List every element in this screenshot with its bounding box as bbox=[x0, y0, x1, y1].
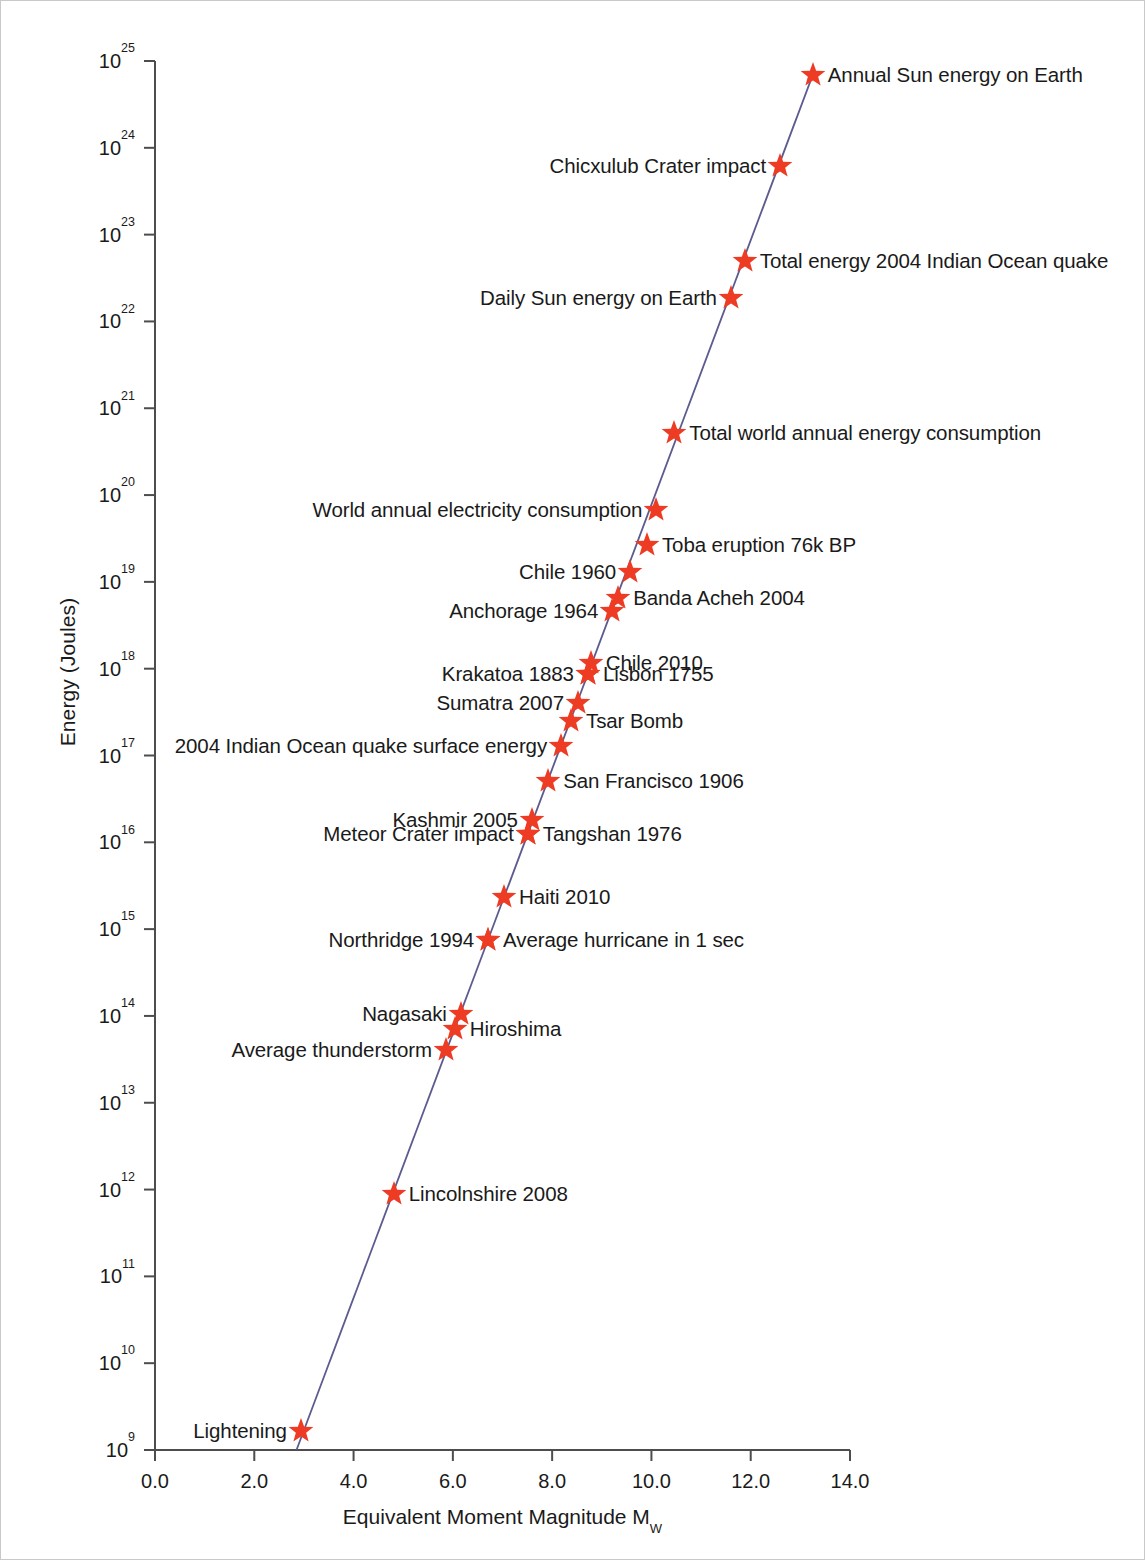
y-tick-label: 1012 bbox=[0, 1178, 135, 1202]
y-tick-label: 1019 bbox=[0, 570, 135, 594]
y-tick-exponent: 10 bbox=[121, 1344, 135, 1358]
y-tick-base: 10 bbox=[99, 484, 121, 506]
y-tick-base: 10 bbox=[99, 137, 121, 159]
data-point-label: Meteor Crater impact bbox=[323, 822, 514, 846]
y-tick-exponent: 20 bbox=[121, 475, 135, 489]
y-tick-label: 1025 bbox=[0, 49, 135, 73]
y-tick-exponent: 16 bbox=[121, 823, 135, 837]
y-tick-exponent: 19 bbox=[121, 562, 135, 576]
y-tick-exponent: 13 bbox=[121, 1083, 135, 1097]
data-point-label: Total energy 2004 Indian Ocean quake bbox=[760, 249, 1109, 273]
y-tick-base: 10 bbox=[99, 223, 121, 245]
x-tick-label: 0.0 bbox=[141, 1470, 169, 1493]
y-tick-label: 1014 bbox=[0, 1004, 135, 1028]
data-point-label: Average hurricane in 1 sec bbox=[503, 928, 744, 952]
y-tick-exponent: 18 bbox=[121, 649, 135, 663]
x-tick-label: 10.0 bbox=[632, 1470, 671, 1493]
data-point-label: Lightening bbox=[193, 1419, 287, 1443]
y-tick-exponent: 17 bbox=[121, 736, 135, 750]
data-point-label: Daily Sun energy on Earth bbox=[480, 286, 717, 310]
data-point-label: Lisbon 1755 bbox=[603, 662, 714, 686]
y-tick-base: 10 bbox=[100, 1265, 122, 1287]
y-tick-exponent: 24 bbox=[121, 128, 135, 142]
y-tick-exponent: 14 bbox=[121, 996, 135, 1010]
y-tick-label: 1024 bbox=[0, 136, 135, 160]
data-point-label: Chile 1960 bbox=[519, 560, 616, 584]
y-tick-label: 1023 bbox=[0, 223, 135, 247]
x-tick-label: 2.0 bbox=[240, 1470, 268, 1493]
data-point-label: San Francisco 1906 bbox=[563, 769, 744, 793]
y-tick-exponent: 22 bbox=[121, 302, 135, 316]
data-point-label: Average thunderstorm bbox=[231, 1038, 431, 1062]
data-point-label: World annual electricity consumption bbox=[313, 498, 643, 522]
data-point-label: Sumatra 2007 bbox=[436, 691, 564, 715]
y-tick-base: 10 bbox=[99, 571, 121, 593]
y-tick-label: 1021 bbox=[0, 396, 135, 420]
data-point-label: Hiroshima bbox=[470, 1017, 561, 1041]
x-axis-title-text: Equivalent Moment Magnitude M bbox=[343, 1505, 650, 1528]
y-tick-exponent: 23 bbox=[121, 215, 135, 229]
y-tick-base: 10 bbox=[99, 1352, 121, 1374]
y-tick-base: 10 bbox=[99, 50, 121, 72]
y-tick-label: 1013 bbox=[0, 1091, 135, 1115]
y-tick-base: 10 bbox=[99, 918, 121, 940]
y-tick-label: 1016 bbox=[0, 830, 135, 854]
y-tick-label: 109 bbox=[0, 1438, 135, 1462]
x-axis-title-subscript: W bbox=[650, 1521, 662, 1536]
data-point-label: Lincolnshire 2008 bbox=[409, 1182, 568, 1206]
data-point-label: Northridge 1994 bbox=[329, 928, 475, 952]
data-point-label: Nagasaki bbox=[362, 1002, 447, 1026]
y-tick-exponent: 25 bbox=[121, 41, 135, 55]
y-tick-base: 10 bbox=[99, 831, 121, 853]
y-tick-base: 10 bbox=[99, 310, 121, 332]
y-tick-exponent: 12 bbox=[121, 1170, 135, 1184]
data-point-label: Toba eruption 76k BP bbox=[662, 533, 856, 557]
y-tick-label: 1015 bbox=[0, 917, 135, 941]
data-point-label: Tangshan 1976 bbox=[543, 822, 682, 846]
chart-overlay: Energy (Joules) Equivalent Moment Magnit… bbox=[0, 0, 1145, 1560]
y-tick-label: 1018 bbox=[0, 657, 135, 681]
y-tick-base: 10 bbox=[99, 658, 121, 680]
data-point-label: Annual Sun energy on Earth bbox=[828, 63, 1083, 87]
y-tick-label: 1022 bbox=[0, 310, 135, 334]
y-tick-base: 10 bbox=[99, 744, 121, 766]
y-tick-base: 10 bbox=[99, 1005, 121, 1027]
data-point-label: Krakatoa 1883 bbox=[442, 662, 574, 686]
data-point-label: Chicxulub Crater impact bbox=[550, 154, 766, 178]
y-tick-base: 10 bbox=[99, 397, 121, 419]
x-tick-label: 12.0 bbox=[731, 1470, 770, 1493]
y-tick-base: 10 bbox=[106, 1439, 128, 1461]
data-point-label: Total world annual energy consumption bbox=[689, 421, 1041, 445]
y-tick-label: 1017 bbox=[0, 744, 135, 768]
x-tick-label: 8.0 bbox=[538, 1470, 566, 1493]
y-tick-exponent: 15 bbox=[121, 910, 135, 924]
data-point-label: Banda Acheh 2004 bbox=[633, 586, 805, 610]
y-tick-exponent: 21 bbox=[121, 389, 135, 403]
y-tick-base: 10 bbox=[99, 1178, 121, 1200]
y-tick-label: 1020 bbox=[0, 483, 135, 507]
x-tick-label: 14.0 bbox=[831, 1470, 870, 1493]
y-tick-base: 10 bbox=[99, 1092, 121, 1114]
y-tick-label: 1010 bbox=[0, 1351, 135, 1375]
y-tick-exponent: 9 bbox=[128, 1430, 135, 1444]
data-point-label: Tsar Bomb bbox=[586, 709, 683, 733]
y-tick-exponent: 11 bbox=[122, 1257, 135, 1271]
data-point-label: Haiti 2010 bbox=[519, 885, 610, 909]
y-tick-label: 1011 bbox=[0, 1265, 135, 1289]
x-tick-label: 4.0 bbox=[340, 1470, 368, 1493]
data-point-label: 2004 Indian Ocean quake surface energy bbox=[175, 734, 547, 758]
x-axis-title: Equivalent Moment Magnitude MW bbox=[155, 1505, 850, 1532]
data-point-label: Anchorage 1964 bbox=[449, 599, 598, 623]
x-tick-label: 6.0 bbox=[439, 1470, 467, 1493]
